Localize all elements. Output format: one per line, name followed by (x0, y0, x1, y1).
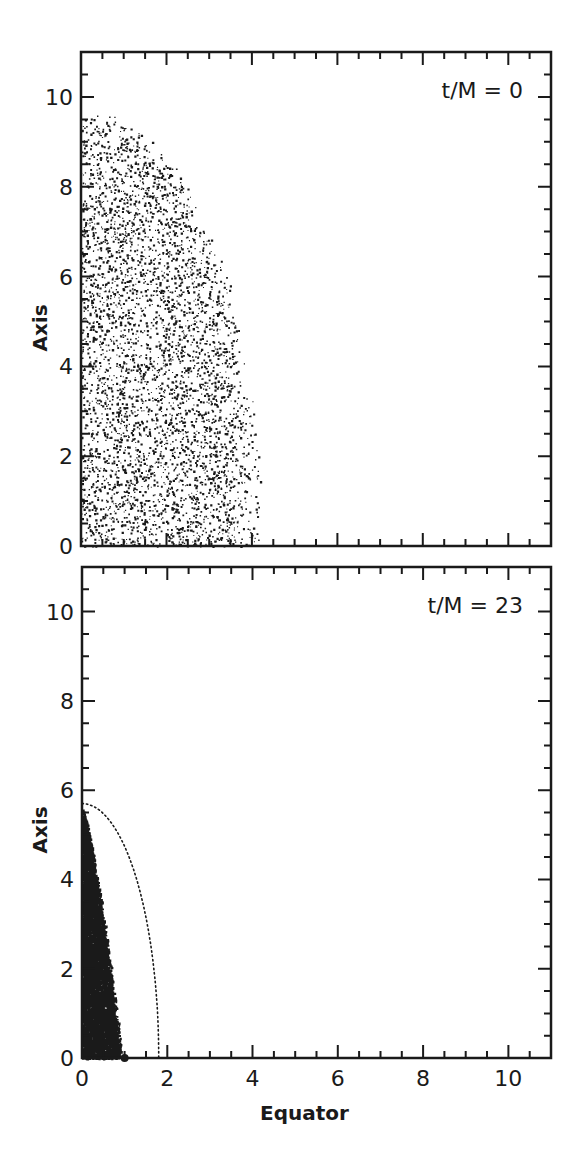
y-tick-label: 2 (59, 444, 73, 469)
particle-scatter-t0 (81, 116, 262, 549)
y-tick-label: 10 (46, 600, 74, 625)
y-tick-label: 6 (59, 265, 73, 290)
ticks-t23 (82, 567, 551, 1058)
y-tick-label: 0 (59, 534, 73, 559)
y-tick-label: 8 (59, 175, 73, 200)
y-tick-label: 4 (59, 354, 73, 379)
particle-scatter-t23 (82, 810, 123, 1061)
x-tick-labels-t23: 0246810 (75, 1066, 522, 1091)
x-tick-label: 10 (494, 1066, 522, 1091)
x-tick-label: 0 (75, 1066, 89, 1091)
time-annotation-t0: t/M = 0 (442, 78, 523, 103)
y-tick-label: 6 (60, 778, 74, 803)
y-tick-label: 2 (60, 957, 74, 982)
x-tick-label: 2 (160, 1066, 174, 1091)
plot-frame-t0 (81, 52, 551, 546)
y-tick-label: 0 (60, 1046, 74, 1071)
y-tick-label: 8 (60, 689, 74, 714)
equator-dot-marker (121, 1054, 129, 1062)
y-tick-label: 4 (60, 867, 74, 892)
y-tick-label: 10 (45, 85, 73, 110)
plot-frame-t23 (82, 567, 551, 1058)
y-axis-title-t0: Axis (28, 304, 52, 351)
panel-t23: 0246810 0246810 t/M = 23 Axis Equator (28, 567, 551, 1125)
x-tick-label: 8 (416, 1066, 430, 1091)
x-tick-label: 6 (331, 1066, 345, 1091)
figure: 0246810 t/M = 0 Axis 0246810 0246810 t/M… (0, 0, 583, 1174)
x-tick-label: 4 (246, 1066, 260, 1091)
ticks-t0 (81, 52, 551, 546)
y-axis-title-t23: Axis (28, 806, 52, 853)
panel-t0: 0246810 t/M = 0 Axis (28, 52, 551, 559)
time-annotation-t23: t/M = 23 (428, 593, 523, 618)
x-axis-title: Equator (260, 1101, 349, 1125)
